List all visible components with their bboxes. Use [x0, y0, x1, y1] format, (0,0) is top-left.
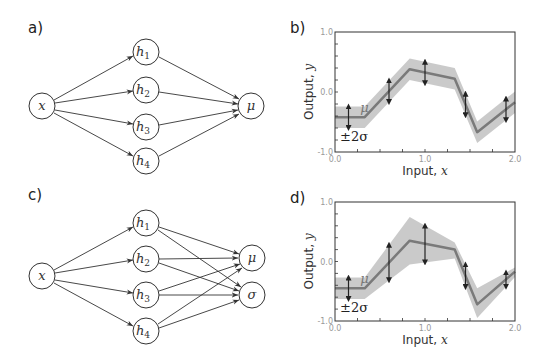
svg-text:μ: μ: [247, 98, 255, 113]
node-sigma: σ: [239, 282, 265, 308]
panel-b-label: b): [290, 19, 305, 37]
panel-b-plot: b) 0.01.02.01.00.0-1.0Input, xOutput, yμ…: [290, 19, 521, 178]
y-tick-label: 1.0: [320, 198, 333, 207]
y-tick-label: -1.0: [317, 317, 333, 326]
sigma-annotation: ±2σ: [340, 129, 368, 144]
panel-d-label: d): [290, 189, 305, 207]
x-tick-label: 2.0: [509, 155, 522, 164]
node-h3: h3: [133, 114, 159, 140]
x-tick-label: 2.0: [509, 324, 522, 333]
svg-text:x: x: [38, 268, 46, 283]
y-axis-label: Output, y: [302, 64, 316, 120]
edges-c: [54, 227, 242, 328]
y-tick-label: 1.0: [320, 28, 333, 37]
plot-b-area: 0.01.02.01.00.0-1.0Input, xOutput, yμ±2σ: [302, 28, 521, 178]
node-h4: h4: [133, 148, 159, 174]
figure: a) x h1 h2 h3 h4: [0, 0, 546, 363]
node-h1: h1: [133, 210, 159, 236]
y-tick-label: -1.0: [317, 148, 333, 157]
mu-annotation: μ: [360, 271, 368, 286]
x-axis-label: Input, x: [402, 164, 448, 178]
panel-c-network-diagram: c) x h1 h2: [28, 186, 265, 344]
edges-a: [54, 56, 239, 156]
x-tick-label: 1.0: [419, 324, 432, 333]
panel-a-network-diagram: a) x h1 h2 h3 h4: [28, 19, 264, 174]
y-tick-label: 0.0: [320, 88, 333, 97]
sigma-annotation: ±2σ: [340, 300, 368, 315]
plot-d-area: 0.01.02.01.00.0-1.0Input, xOutput, yμ±2σ: [302, 198, 521, 347]
panel-d-plot: d) 0.01.02.01.00.0-1.0Input, xOutput, yμ…: [290, 189, 521, 347]
node-x: x: [29, 93, 55, 119]
mu-annotation: μ: [360, 100, 368, 115]
svg-text:σ: σ: [248, 287, 258, 302]
y-axis-label: Output, y: [302, 233, 316, 289]
x-axis-label: Input, x: [402, 333, 448, 347]
node-h3: h3: [133, 282, 159, 308]
node-mu: μ: [238, 93, 264, 119]
node-x: x: [29, 263, 55, 289]
svg-text:x: x: [38, 98, 46, 113]
node-h2: h2: [133, 77, 159, 103]
x-tick-label: 1.0: [419, 155, 432, 164]
node-h2: h2: [133, 246, 159, 272]
node-h1: h1: [133, 39, 159, 65]
node-h4: h4: [133, 318, 159, 344]
y-tick-label: 0.0: [320, 258, 333, 267]
svg-text:μ: μ: [248, 250, 256, 265]
node-mu: μ: [239, 245, 265, 271]
panel-c-label: c): [28, 186, 42, 204]
panel-a-label: a): [28, 19, 43, 37]
